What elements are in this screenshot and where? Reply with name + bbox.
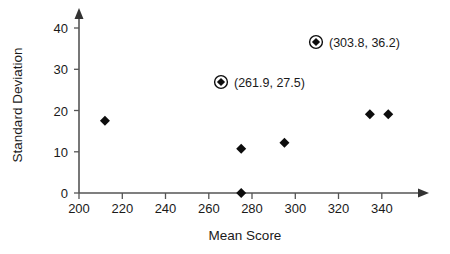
x-tick-label-240: 240 xyxy=(155,201,177,216)
annotation: (261.9, 27.5) xyxy=(215,76,305,90)
x-tick-label-220: 220 xyxy=(111,201,133,216)
x-tick-label-320: 320 xyxy=(328,201,350,216)
y-axis-arrow-icon xyxy=(75,8,84,19)
plot-area: 0 10 20 30 40 200 220 240 260 280 300 32… xyxy=(0,0,450,254)
x-tick-label-300: 300 xyxy=(284,201,306,216)
y-tick-label-30: 30 xyxy=(54,62,68,77)
y-axis-title: Standard Deviation xyxy=(10,48,25,163)
highlighted-marker-icon xyxy=(217,78,225,86)
data-point xyxy=(236,188,246,198)
x-axis-title: Mean Score xyxy=(209,228,282,243)
data-point xyxy=(365,109,375,119)
y-tick-label-10: 10 xyxy=(54,145,68,160)
highlighted-marker-icon xyxy=(312,38,320,46)
y-tick-label-20: 20 xyxy=(54,104,68,119)
data-point xyxy=(236,144,246,154)
x-tick-label-260: 260 xyxy=(198,201,220,216)
data-markers xyxy=(100,109,393,198)
y-tick-label-40: 40 xyxy=(54,21,68,36)
y-tick-label-0: 0 xyxy=(61,186,68,201)
annotation-label: (303.8, 36.2) xyxy=(329,36,400,50)
annotation-labels: (303.8, 36.2)(261.9, 27.5) xyxy=(215,36,400,90)
x-tick-label-340: 340 xyxy=(371,201,393,216)
x-axis-arrow-icon xyxy=(418,189,429,198)
x-tick-marks xyxy=(79,193,382,199)
data-point xyxy=(100,116,110,126)
annotation-label: (261.9, 27.5) xyxy=(234,76,305,90)
data-point xyxy=(279,138,289,148)
x-axis xyxy=(79,189,429,198)
x-tick-label-280: 280 xyxy=(241,201,263,216)
scatter-chart: 0 10 20 30 40 200 220 240 260 280 300 32… xyxy=(0,0,450,254)
y-axis xyxy=(75,8,84,193)
x-tick-label-200: 200 xyxy=(68,201,90,216)
data-point xyxy=(383,109,393,119)
annotation: (303.8, 36.2) xyxy=(310,36,400,50)
